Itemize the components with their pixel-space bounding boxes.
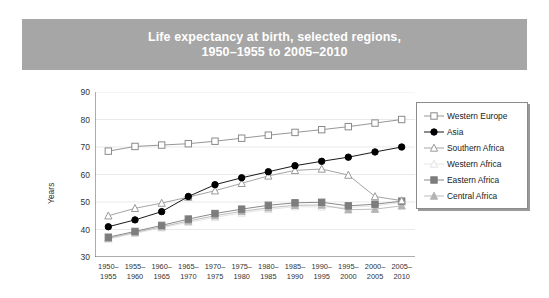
x-tick-label-1: 1955–1960: [122, 262, 149, 288]
page-title-line-1: Life expectancy at birth, selected regio…: [148, 30, 401, 45]
data-point: [238, 175, 244, 181]
x-label-top: 1960–: [148, 262, 175, 272]
data-point: [345, 203, 351, 209]
x-label-bottom: 1980: [228, 272, 255, 282]
legend-item-asia[interactable]: Asia: [423, 124, 527, 140]
data-point: [292, 200, 298, 206]
y-axis-tick-labels: 90807060504030: [60, 92, 90, 257]
data-point: [158, 208, 164, 214]
data-point: [372, 201, 378, 207]
series-line: [108, 147, 401, 227]
x-label-bottom: 2005: [362, 272, 389, 282]
series-western-europe: [105, 116, 405, 154]
data-series-layer: [105, 116, 406, 242]
data-point: [372, 120, 378, 126]
x-tick-label-11: 2005–2010: [388, 262, 415, 288]
data-point: [185, 193, 191, 199]
x-tick-label-8: 1990–1995: [308, 262, 335, 288]
x-label-top: 1970–: [202, 262, 229, 272]
legend-label: Western Europe: [447, 111, 507, 121]
data-point: [185, 141, 191, 147]
page-title-line-2: 1950–1955 to 2005–2010: [201, 45, 347, 60]
legend-item-western-europe[interactable]: Western Europe: [423, 108, 527, 124]
legend-label: Eastern Africa: [447, 175, 499, 185]
legend-label: Asia: [447, 127, 463, 137]
data-point: [398, 144, 404, 150]
filled-square-icon: [423, 174, 445, 186]
legend-label: Central Africa: [447, 191, 497, 201]
series-line: [108, 169, 401, 216]
x-label-bottom: 2000: [335, 272, 362, 282]
open-triangle-icon: [423, 158, 445, 170]
data-point: [238, 206, 244, 212]
x-tick-label-4: 1970–1975: [202, 262, 229, 288]
x-label-top: 1990–: [308, 262, 335, 272]
x-label-top: 1995–: [335, 262, 362, 272]
open-square-icon: [423, 110, 445, 122]
x-label-top: 2000–: [362, 262, 389, 272]
y-tick-30: 30: [81, 252, 90, 262]
data-point: [105, 148, 111, 154]
y-tick-40: 40: [81, 225, 90, 235]
x-tick-label-5: 1975–1980: [228, 262, 255, 288]
y-tick-70: 70: [81, 142, 90, 152]
data-point: [132, 217, 138, 223]
data-point: [158, 222, 164, 228]
data-point: [371, 193, 378, 200]
plot-svg: [95, 92, 415, 257]
x-label-bottom: 1990: [282, 272, 309, 282]
data-point: [318, 158, 324, 164]
data-point: [158, 142, 164, 148]
x-label-top: 2005–: [388, 262, 415, 272]
data-point: [132, 143, 138, 149]
data-point: [265, 132, 271, 138]
x-label-bottom: 1965: [148, 272, 175, 282]
series-asia: [105, 144, 405, 230]
data-point: [398, 116, 404, 122]
legend-item-eastern-africa[interactable]: Eastern Africa: [423, 172, 527, 188]
x-label-bottom: 1975: [202, 272, 229, 282]
series-line: [108, 205, 401, 238]
y-axis-title: Years: [46, 183, 56, 204]
data-point: [372, 149, 378, 155]
x-tick-label-9: 1995–2000: [335, 262, 362, 288]
series-eastern-africa: [105, 198, 405, 240]
chart-title-banner: Life expectancy at birth, selected regio…: [22, 19, 527, 70]
y-tick-60: 60: [81, 170, 90, 180]
y-tick-50: 50: [81, 197, 90, 207]
data-point: [238, 135, 244, 141]
x-axis-tick-labels: 1950–19551955–19601960–19651965–19701970…: [95, 262, 415, 288]
x-tick-label-3: 1965–1970: [175, 262, 202, 288]
legend-item-central-africa[interactable]: Central Africa: [423, 188, 527, 204]
x-tick-label-6: 1980–1985: [255, 262, 282, 288]
x-tick-label-2: 1960–1965: [148, 262, 175, 288]
x-label-bottom: 1995: [308, 272, 335, 282]
legend-item-southern-africa[interactable]: Southern Africa: [423, 140, 527, 156]
filled-triangle-icon: [423, 190, 445, 202]
x-tick-label-7: 1985–1990: [282, 262, 309, 288]
x-label-top: 1955–: [122, 262, 149, 272]
legend-label: Southern Africa: [447, 143, 504, 153]
y-tick-90: 90: [81, 87, 90, 97]
data-point: [345, 123, 351, 129]
chart-legend: Western EuropeAsiaSouthern AfricaWestern…: [416, 102, 528, 209]
x-label-top: 1950–: [95, 262, 122, 272]
data-point: [345, 154, 351, 160]
data-point: [212, 181, 218, 187]
data-point: [212, 138, 218, 144]
open-triangle-icon: [423, 142, 445, 154]
y-tick-80: 80: [81, 115, 90, 125]
data-point: [292, 129, 298, 135]
data-point: [318, 126, 324, 132]
legend-item-western-africa[interactable]: Western Africa: [423, 156, 527, 172]
x-label-bottom: 1955: [95, 272, 122, 282]
x-tick-label-10: 2000–2005: [362, 262, 389, 288]
x-tick-label-0: 1950–1955: [95, 262, 122, 288]
x-label-bottom: 1970: [175, 272, 202, 282]
x-label-bottom: 2010: [388, 272, 415, 282]
series-line: [108, 203, 401, 240]
data-point: [185, 216, 191, 222]
data-point: [265, 169, 271, 175]
plot-area: [95, 92, 415, 257]
filled-circle-icon: [423, 126, 445, 138]
